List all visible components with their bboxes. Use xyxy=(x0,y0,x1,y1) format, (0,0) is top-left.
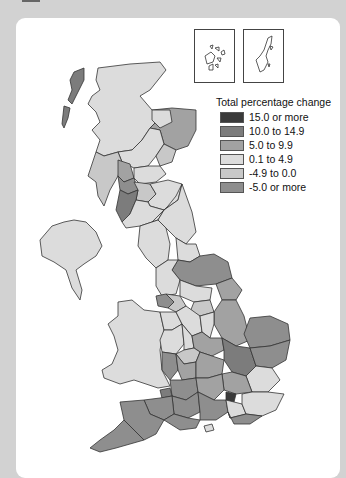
region-western-isles-south xyxy=(62,106,70,128)
legend-title: Total percentage change xyxy=(216,96,331,108)
region-western-isles xyxy=(68,68,84,104)
legend-item: -4.9 to 0.0 xyxy=(220,166,331,180)
orkney-islands-icon xyxy=(195,30,234,82)
legend-swatch xyxy=(220,168,244,179)
legend-swatch xyxy=(220,140,244,151)
legend-item: 5.0 to 9.9 xyxy=(220,138,331,152)
region-kent xyxy=(242,392,284,416)
legend-label: 15.0 or more xyxy=(249,111,309,123)
legend-label: 0.1 to 4.9 xyxy=(249,153,293,165)
shetland-islands-icon xyxy=(244,30,283,82)
legend-swatch xyxy=(220,182,244,193)
region-isle-of-wight xyxy=(204,424,214,432)
legend-swatch xyxy=(220,112,244,123)
region-northern-ireland xyxy=(40,220,102,300)
region-argyll xyxy=(88,152,122,206)
region-northamptonshire xyxy=(196,352,224,378)
legend-label: 10.0 to 14.9 xyxy=(249,125,304,137)
legend-label: 5.0 to 9.9 xyxy=(249,139,293,151)
legend-item: 0.1 to 4.9 xyxy=(220,152,331,166)
legend: Total percentage change 15.0 or more 10.… xyxy=(220,96,331,194)
legend-label: -5.0 or more xyxy=(249,181,306,193)
region-cumbria xyxy=(138,220,170,268)
legend-swatch xyxy=(220,154,244,165)
legend-item: 15.0 or more xyxy=(220,110,331,124)
region-dorset xyxy=(164,414,200,430)
legend-swatch xyxy=(220,126,244,137)
inset-orkney xyxy=(194,29,235,83)
legend-label: -4.9 to 0.0 xyxy=(249,167,296,179)
inset-shetland xyxy=(243,29,284,83)
legend-item: -5.0 or more xyxy=(220,180,331,194)
region-wales xyxy=(102,300,170,388)
legend-item: 10.0 to 14.9 xyxy=(220,124,331,138)
